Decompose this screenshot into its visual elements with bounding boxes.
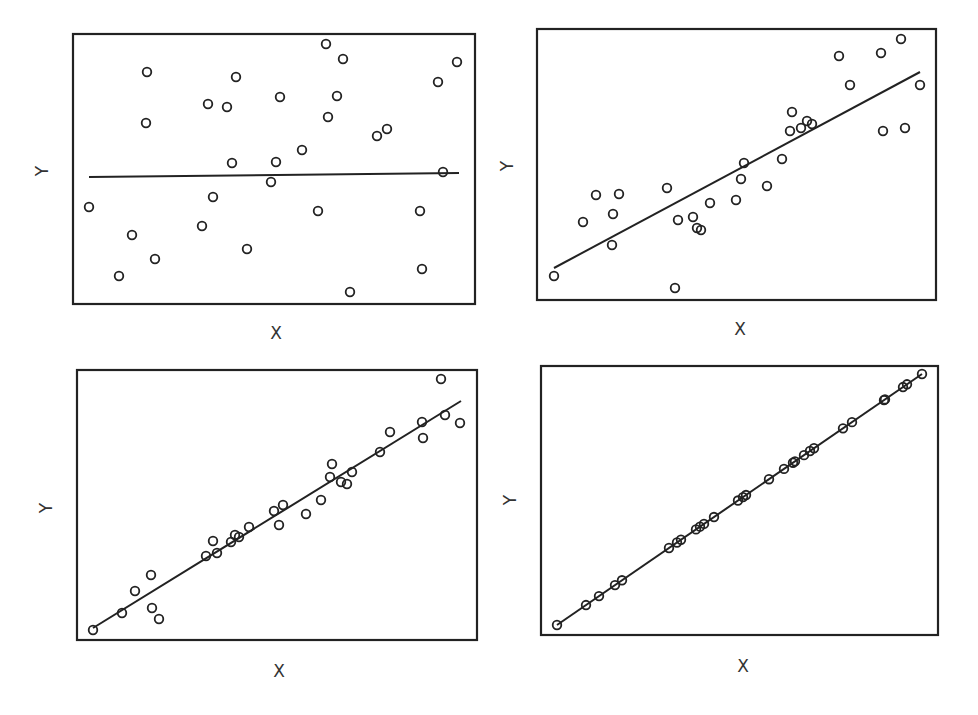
figure-canvas: XYXYXYXY (0, 0, 978, 715)
data-point (245, 523, 254, 532)
data-point (671, 284, 680, 293)
data-point (663, 184, 672, 193)
data-point (228, 159, 237, 168)
data-point (223, 103, 232, 112)
regression-line (554, 72, 920, 268)
data-point (592, 191, 601, 200)
data-point (456, 419, 465, 428)
data-point (232, 73, 241, 82)
data-point (418, 265, 427, 274)
scatter-panel-2: XY (497, 29, 936, 339)
x-axis-label: X (737, 656, 749, 676)
x-axis-label: X (270, 323, 282, 343)
data-point (916, 81, 925, 90)
data-point (131, 587, 140, 596)
data-point (115, 272, 124, 281)
data-point (453, 58, 462, 67)
data-point (324, 113, 333, 122)
data-point (835, 52, 844, 61)
data-point (142, 119, 151, 128)
data-point (579, 218, 588, 227)
data-point (609, 210, 618, 219)
x-axis-label: X (273, 661, 285, 681)
data-point (846, 81, 855, 90)
data-point (143, 68, 152, 77)
data-point (151, 255, 160, 264)
data-point (550, 272, 559, 281)
data-point (339, 55, 348, 64)
data-point (434, 78, 443, 87)
data-point (155, 615, 164, 624)
data-point (786, 127, 795, 136)
data-point (416, 207, 425, 216)
data-point (148, 604, 157, 613)
data-point (439, 168, 448, 177)
data-point (778, 155, 787, 164)
data-point (386, 428, 395, 437)
regression-line (89, 173, 459, 177)
data-point (877, 49, 886, 58)
data-point (276, 93, 285, 102)
data-point (314, 207, 323, 216)
data-point (298, 146, 307, 155)
data-point (270, 507, 279, 516)
data-point (608, 241, 617, 250)
data-point (346, 288, 355, 297)
data-point (85, 203, 94, 212)
data-point (302, 510, 311, 519)
data-point (674, 216, 683, 225)
data-point (198, 222, 207, 231)
data-point (419, 434, 428, 443)
data-point (243, 245, 252, 254)
plot-frame (73, 34, 475, 304)
data-point (383, 125, 392, 134)
x-axis-label: X (734, 319, 746, 339)
data-point (615, 190, 624, 199)
plot-frame (77, 370, 477, 640)
data-point (147, 571, 156, 580)
data-point (901, 124, 910, 133)
data-point (317, 496, 326, 505)
data-point (333, 92, 342, 101)
scatter-panel-1: XY (32, 34, 475, 343)
data-point (879, 127, 888, 136)
data-point (737, 175, 746, 184)
data-point (689, 213, 698, 222)
data-point (326, 473, 335, 482)
scatter-panel-4: XY (500, 366, 938, 676)
data-point (897, 35, 906, 44)
data-point (272, 158, 281, 167)
y-axis-label: Y (36, 502, 56, 514)
data-point (437, 375, 446, 384)
plot-frame (537, 29, 936, 300)
data-point (328, 460, 337, 469)
data-point (373, 132, 382, 141)
data-point (128, 231, 137, 240)
data-point (209, 193, 218, 202)
scatter-panel-3: XY (36, 370, 477, 681)
y-axis-label: Y (500, 494, 520, 506)
data-point (706, 199, 715, 208)
data-point (763, 182, 772, 191)
data-point (788, 108, 797, 117)
data-point (732, 196, 741, 205)
data-point (322, 40, 331, 49)
data-point (279, 501, 288, 510)
y-axis-label: Y (497, 160, 517, 172)
data-point (204, 100, 213, 109)
data-point (267, 178, 276, 187)
data-point (209, 537, 218, 546)
y-axis-label: Y (32, 165, 52, 177)
data-point (275, 521, 284, 530)
